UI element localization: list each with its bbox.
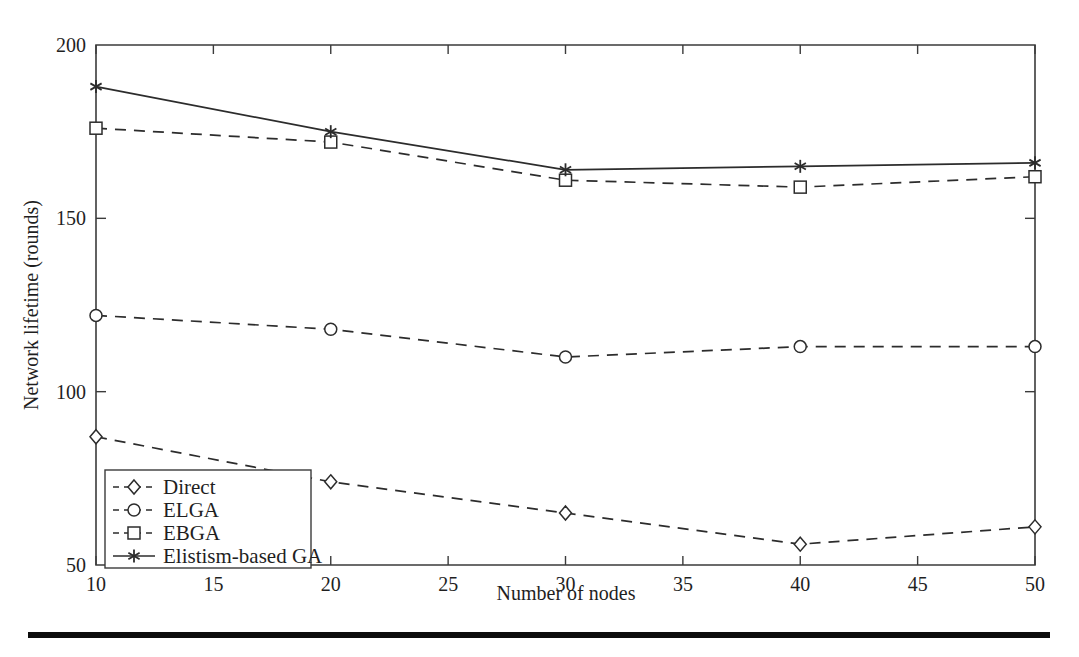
data-point [1029, 171, 1041, 183]
legend-marker-circle-icon [128, 504, 140, 516]
y-tick-label: 100 [56, 381, 86, 403]
data-point [90, 122, 102, 134]
figure-container: 101520253035404550 50100150200 DirectELG… [0, 0, 1079, 657]
y-axis-title: Network lifetime (rounds) [20, 200, 43, 410]
x-tick-label: 15 [203, 573, 223, 595]
data-point [560, 351, 572, 363]
x-tick-label: 25 [438, 573, 458, 595]
series-elistism-based-ga [90, 80, 1040, 176]
data-point [90, 309, 102, 321]
data-point [794, 341, 806, 353]
y-tick-label: 200 [56, 34, 86, 56]
x-tick-label: 45 [908, 573, 928, 595]
data-point [325, 475, 337, 489]
legend-label: Direct [163, 475, 216, 499]
y-axis-tick-labels: 50100150200 [56, 34, 86, 576]
x-tick-label: 20 [321, 573, 341, 595]
data-point [325, 323, 337, 335]
legend-label: ELGA [163, 498, 220, 522]
data-point [1029, 520, 1041, 534]
data-point [794, 537, 806, 551]
line-chart: 101520253035404550 50100150200 DirectELG… [0, 0, 1079, 657]
series-ebga [90, 122, 1041, 193]
data-point [560, 506, 572, 520]
footer-rule [28, 632, 1050, 638]
legend-label: Elistism-based GA [163, 544, 323, 568]
y-axis-ticks [96, 218, 1035, 391]
data-point [1029, 341, 1041, 353]
legend-label: EBGA [163, 521, 221, 545]
data-point [794, 181, 806, 193]
legend-marker-square-icon [128, 527, 140, 539]
x-tick-label: 10 [86, 573, 106, 595]
x-tick-label: 35 [673, 573, 693, 595]
legend[interactable]: DirectELGAEBGAElistism-based GA [105, 470, 323, 568]
y-tick-label: 150 [56, 207, 86, 229]
series-elga [90, 309, 1041, 363]
y-tick-label: 50 [66, 554, 86, 576]
x-axis-title: Number of nodes [497, 582, 636, 604]
x-tick-label: 50 [1025, 573, 1045, 595]
series-line [96, 87, 1035, 170]
data-point [90, 430, 102, 444]
x-tick-label: 40 [790, 573, 810, 595]
